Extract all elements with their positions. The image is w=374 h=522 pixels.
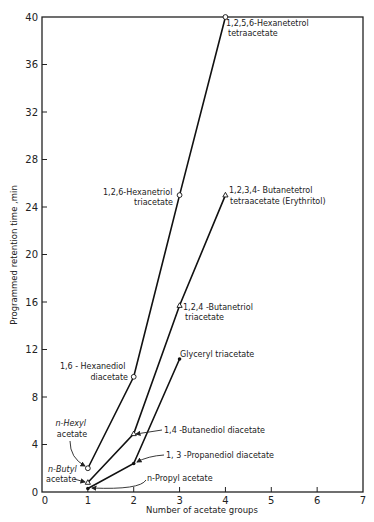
- x-axis-title: Number of acetate groups: [146, 505, 258, 515]
- annotation-erythritol: 1,2,3,4- Butanetetrol tetraacetate (Eryt…: [229, 186, 326, 206]
- annotation-propanediol: 1, 3 -Propanediol diacetate: [166, 451, 274, 460]
- data-point-marker: [86, 487, 90, 491]
- y-tick-label: 24: [25, 202, 38, 213]
- arrow-propanediol: [137, 455, 164, 462]
- plot-frame: [42, 17, 363, 492]
- y-tick-label: 8: [32, 392, 38, 403]
- arrow-n-hexyl: [70, 441, 85, 466]
- y-tick-label: 36: [25, 59, 38, 70]
- y-tick-label: 4: [32, 439, 38, 450]
- x-axis: 01234567: [42, 487, 366, 506]
- x-tick-label: 7: [360, 495, 366, 506]
- annotations: 1,2,5,6-Hexanetetrol tetraacetate 1,2,6-…: [46, 19, 326, 488]
- y-tick-label: 0: [32, 487, 38, 498]
- annotation-n-hexyl-acetate: n-Hexyl acetate: [55, 419, 88, 439]
- y-tick-label: 12: [25, 344, 38, 355]
- annotation-n-butyl-acetate: n-Butyl acetate: [46, 465, 79, 484]
- series-line: [88, 17, 226, 468]
- y-tick-label: 40: [25, 12, 38, 23]
- x-tick-label: 2: [131, 495, 137, 506]
- x-tick-label: 6: [314, 495, 320, 506]
- data-point-marker: [131, 374, 136, 379]
- y-axis-title: Programmed retention time ,min: [9, 185, 19, 325]
- data-point-marker: [177, 193, 182, 198]
- y-tick-label: 20: [25, 249, 38, 260]
- y-axis: 0481216202428323640: [25, 12, 47, 498]
- annotation-hexanetriol: 1,2,6-Hexanetriol triacetate: [103, 188, 175, 207]
- data-point-marker: [177, 303, 182, 308]
- data-point-marker: [131, 431, 136, 436]
- annotation-butanetriol: 1,2,4 -Butanetriol triacetate: [183, 303, 255, 322]
- y-tick-label: 32: [25, 107, 38, 118]
- annotation-hexanediol: 1,6 - Hexanediol diacetate: [60, 362, 128, 382]
- annotation-glyceryl-triacetate: Glyceryl triacetate: [180, 350, 254, 359]
- y-tick-label: 16: [25, 297, 38, 308]
- series-layer: [85, 15, 228, 491]
- y-tick-label: 28: [25, 154, 38, 165]
- x-tick-label: 1: [85, 495, 91, 506]
- annotation-hexanetetrol: 1,2,5,6-Hexanetetrol tetraacetate: [226, 19, 311, 38]
- data-point-marker: [223, 192, 228, 197]
- series-line: [88, 195, 226, 482]
- retention-time-chart: 0481216202428323640 01234567 Number of a…: [0, 0, 374, 522]
- data-point-marker: [132, 462, 136, 466]
- annotation-butanediol: 1,4 -Butanediol diacetate: [164, 426, 265, 435]
- x-tick-label: 0: [42, 495, 48, 506]
- annotation-n-propyl-acetate: n-Propyl acetate: [147, 474, 213, 483]
- x-tick-label: 5: [268, 495, 274, 506]
- data-point-marker: [85, 466, 90, 471]
